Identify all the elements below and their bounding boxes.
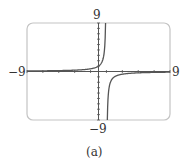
- curve-branch: [107, 72, 170, 120]
- x-max-label: 9: [172, 66, 180, 78]
- curve-branch: [27, 23, 106, 71]
- x-min-label: −9: [8, 66, 26, 78]
- y-max-label: 9: [93, 9, 101, 21]
- caption: (a): [86, 146, 103, 158]
- y-min-label: −9: [89, 123, 107, 135]
- axes: [27, 23, 170, 120]
- graph-window: [0, 0, 181, 165]
